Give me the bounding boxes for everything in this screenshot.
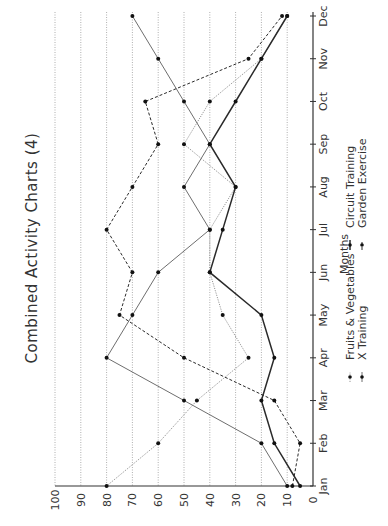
data-point-marker [182, 99, 186, 103]
month-tick-label: Mar [317, 390, 330, 411]
chart-title: Combined Activity Charts (4) [23, 133, 41, 364]
value-tick-label: 80 [101, 493, 114, 507]
data-point-marker [247, 57, 251, 61]
legend-label: X Training [356, 306, 369, 360]
series-circuit-training [208, 14, 302, 488]
value-tick-label: 50 [178, 493, 191, 507]
series-line [107, 16, 288, 486]
data-point-marker [259, 57, 263, 61]
value-tick-label: 30 [230, 493, 243, 507]
month-tick-label: Apr [317, 348, 330, 368]
month-axis [55, 12, 316, 486]
month-tick-label: Aug [317, 176, 330, 197]
series-line [107, 16, 288, 486]
data-point-marker [105, 356, 109, 360]
data-point-marker [182, 142, 186, 146]
data-point-marker [105, 484, 109, 488]
data-point-marker [272, 399, 276, 403]
value-tick-label: 0 [307, 497, 320, 504]
data-point-marker [182, 356, 186, 360]
value-tick-label: 20 [255, 493, 268, 507]
data-point-marker [259, 441, 263, 445]
data-point-marker [130, 313, 134, 317]
data-point-marker [208, 228, 212, 232]
data-point-marker [285, 14, 289, 18]
data-point-marker [285, 484, 289, 488]
data-point-marker [234, 185, 238, 189]
series-line [107, 16, 301, 486]
data-point-marker [143, 99, 147, 103]
combined-activity-chart: 0102030405060708090100 JanFebMarAprMayJu… [0, 0, 388, 526]
data-point-marker [272, 356, 276, 360]
data-point-marker [272, 441, 276, 445]
data-point-marker [280, 14, 284, 18]
data-point-marker [130, 14, 134, 18]
legend-marker [348, 375, 352, 379]
month-tick-label: Jun [317, 264, 330, 282]
data-point-marker [195, 399, 199, 403]
month-tick-label: Sep [317, 134, 330, 155]
data-point-marker [156, 57, 160, 61]
data-point-marker [130, 270, 134, 274]
value-tick-label: 60 [152, 493, 165, 507]
value-tick-label: 100 [49, 490, 62, 511]
data-point-marker [156, 441, 160, 445]
series-garden-exercise [105, 14, 303, 488]
data-point-marker [290, 484, 294, 488]
data-point-marker [105, 228, 109, 232]
data-point-marker [130, 185, 134, 189]
gridlines [55, 12, 287, 486]
value-tick-label: 40 [204, 493, 217, 507]
data-point-marker [221, 228, 225, 232]
data-point-marker [259, 313, 263, 317]
month-tick-label: Jul [317, 223, 330, 237]
data-point-marker [118, 313, 122, 317]
data-point-marker [208, 142, 212, 146]
data-point-marker [182, 399, 186, 403]
data-point-marker [234, 99, 238, 103]
month-tick-label: Nov [317, 48, 330, 70]
value-tick-label: 90 [75, 493, 88, 507]
legend-marker [360, 375, 364, 379]
month-tick-label: Jan [317, 477, 330, 495]
legend-label: Garden Exercise [356, 138, 369, 228]
data-point-marker [298, 441, 302, 445]
series-line [210, 16, 300, 486]
month-tick-labels: JanFebMarAprMayJunJulAugSepOctNovDec [317, 5, 330, 495]
data-point-marker [298, 484, 302, 488]
data-point-marker [208, 270, 212, 274]
legend-marker [360, 243, 364, 247]
legend-item: X Training [356, 306, 369, 382]
month-tick-label: Dec [317, 5, 330, 26]
data-point-marker [208, 99, 212, 103]
data-point-marker [156, 270, 160, 274]
data-point-marker [221, 313, 225, 317]
month-tick-label: Oct [317, 91, 330, 111]
value-tick-label: 70 [126, 493, 139, 507]
data-point-marker [247, 356, 251, 360]
legend-item: Garden Exercise [356, 138, 369, 250]
value-tick-labels: 0102030405060708090100 [49, 490, 320, 511]
series-lines [105, 14, 303, 488]
month-tick-label: Feb [317, 434, 330, 453]
data-point-marker [182, 185, 186, 189]
x-axis-label: Months [338, 234, 351, 274]
data-point-marker [259, 399, 263, 403]
month-tick-label: May [317, 303, 330, 326]
value-tick-label: 10 [281, 493, 294, 507]
data-point-marker [156, 142, 160, 146]
